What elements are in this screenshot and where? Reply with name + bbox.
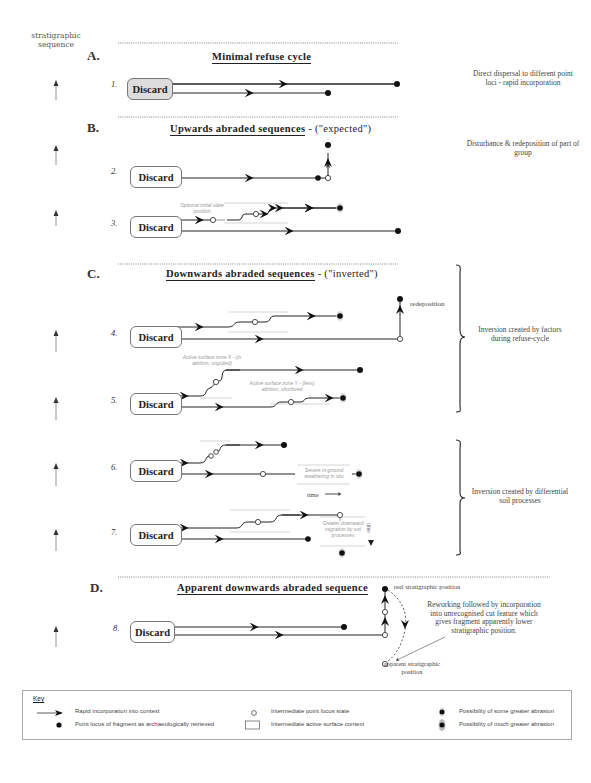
key-label-some-abrasion: Possibility of some greater abrasion — [459, 708, 554, 714]
dot-some-abrasion-icon — [437, 706, 447, 718]
note-direct-dispersal: Direct dispersal to different point loci… — [468, 69, 578, 87]
apparent-position-label: apparent stratigraphic position — [383, 660, 441, 676]
discard-box-3: Discard — [130, 216, 182, 238]
row-number-4: 4. — [111, 328, 117, 338]
section-b-letter: B. — [87, 120, 99, 136]
note-inversion-refuse-cycle: Inversion created by factors during refu… — [470, 325, 570, 343]
section-c-qualifier: - ("inverted") — [315, 268, 378, 279]
discard-box-5: Discard — [130, 393, 182, 415]
filled-dot-icon — [54, 720, 64, 730]
open-circle-icon — [249, 708, 259, 718]
row-number-7: 7. — [111, 527, 117, 537]
row-number-5: 5. — [111, 395, 117, 405]
discard-box-6: Discard — [130, 460, 182, 482]
section-d-title-text: Apparent downwards abraded sequence — [177, 582, 368, 595]
discard-box-4: Discard — [130, 326, 182, 348]
redeposition-label: redeposition — [410, 300, 445, 309]
arrow-icon — [37, 708, 67, 718]
key-label-rectangle: Intermediate active surface context — [271, 721, 364, 727]
key-label-arrow: Rapid incorporation into context — [75, 708, 159, 714]
greater-migration-label: Greater downward migration by soil proce… — [322, 520, 364, 538]
key-legend: Key Rapid incorporation into context Poi… — [22, 690, 572, 740]
zone-y-label: Active surface zone Y - (less) attrition… — [242, 380, 322, 392]
key-label-filled-dot: Point locus of fragment as archaeologica… — [75, 721, 214, 727]
section-c-title-text: Downwards abraded sequences — [166, 268, 315, 281]
section-c-title: Downwards abraded sequences - ("inverted… — [166, 268, 378, 279]
section-b-title: Upwards abraded sequences - ("expected") — [170, 123, 371, 134]
section-d-title: Apparent downwards abraded sequence — [177, 582, 368, 593]
dot-much-abrasion-icon — [437, 718, 447, 732]
section-c-letter: C. — [87, 266, 100, 282]
discard-box-7: Discard — [130, 524, 182, 546]
note-reworking: Reworking followed by incorporation into… — [422, 601, 546, 635]
key-title: Key — [33, 695, 44, 702]
zone-x-label: Active surface zone X - (in attrition, u… — [176, 354, 248, 366]
real-position-label: real stratigraphic position — [392, 583, 462, 591]
row-number-8: 8. — [113, 623, 119, 633]
section-a-title-text: Minimal refuse cycle — [212, 51, 311, 64]
section-a-title: Minimal refuse cycle — [212, 51, 311, 62]
row-number-2: 2. — [111, 166, 117, 176]
key-label-much-abrasion: Possibility of much greater abrasion — [459, 721, 554, 727]
section-b-title-text: Upwards abraded sequences — [170, 123, 305, 136]
key-label-open-circle: Intermediate point locus state — [271, 708, 349, 714]
note-disturbance: Disturbance & redeposition of part of gr… — [466, 139, 580, 157]
discard-box-1: Discard — [127, 78, 173, 100]
axis-label: stratigraphic sequence — [26, 31, 86, 49]
row-number-3: 3. — [111, 218, 117, 228]
severe-weathering-label: Severe in-ground weathering in situ — [297, 467, 351, 479]
section-a-letter: A. — [87, 48, 100, 64]
time-vertical-label: time — [364, 523, 373, 533]
section-d-letter: D. — [90, 580, 103, 596]
note-inversion-soil: Inversion created by differential soil p… — [470, 487, 570, 505]
section-b-qualifier: - ("expected") — [305, 123, 371, 134]
row-number-6: 6. — [111, 462, 117, 472]
time-label: time — [307, 490, 319, 499]
rectangle-icon — [245, 720, 261, 730]
optional-initial-label: Optional initial state position — [178, 202, 226, 214]
discard-box-8: Discard — [130, 621, 175, 643]
discard-box-2: Discard — [130, 166, 182, 188]
row-number-1: 1. — [111, 79, 117, 89]
